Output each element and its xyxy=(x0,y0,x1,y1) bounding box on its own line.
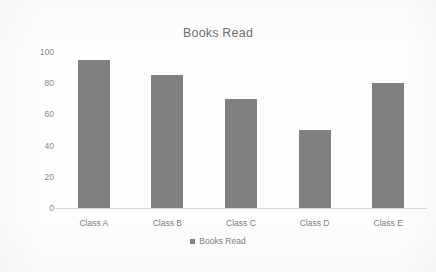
bar-slot xyxy=(278,52,352,208)
x-label-slot: Class D xyxy=(278,212,352,230)
legend-swatch-icon xyxy=(190,239,195,244)
x-label-slot: Class E xyxy=(351,212,425,230)
bar-slot xyxy=(57,52,131,208)
bar[interactable] xyxy=(372,83,404,208)
bars-group xyxy=(57,52,425,208)
x-axis-tick-label: Class B xyxy=(153,218,182,228)
x-label-slot: Class A xyxy=(57,212,131,230)
x-axis-tick-label: Class A xyxy=(79,218,108,228)
x-axis-tick-label: Class E xyxy=(374,218,403,228)
bar[interactable] xyxy=(78,60,110,208)
chart-title: Books Read xyxy=(0,26,436,40)
bar-slot xyxy=(204,52,278,208)
bar-slot xyxy=(131,52,205,208)
chart-legend: Books Read xyxy=(0,236,436,246)
bar-chart-figure: Books Read 020406080100 Class AClass BCl… xyxy=(0,0,436,272)
y-axis: 020406080100 xyxy=(18,52,54,208)
y-axis-tick-label: 100 xyxy=(18,47,54,57)
x-axis-line xyxy=(55,208,427,209)
x-axis-labels: Class AClass BClass CClass DClass E xyxy=(57,212,425,230)
y-axis-tick-label: 60 xyxy=(18,109,54,119)
bar[interactable] xyxy=(151,75,183,208)
x-label-slot: Class B xyxy=(131,212,205,230)
bar-slot xyxy=(351,52,425,208)
y-axis-tick-label: 0 xyxy=(18,203,54,213)
x-axis-tick-label: Class D xyxy=(300,218,330,228)
plot-area xyxy=(57,52,425,208)
bar[interactable] xyxy=(299,130,331,208)
bar[interactable] xyxy=(225,99,257,208)
legend-label: Books Read xyxy=(199,236,245,246)
x-axis-tick-label: Class C xyxy=(226,218,256,228)
y-axis-tick-label: 20 xyxy=(18,172,54,182)
y-axis-tick-label: 40 xyxy=(18,141,54,151)
y-axis-tick-label: 80 xyxy=(18,78,54,88)
x-label-slot: Class C xyxy=(204,212,278,230)
